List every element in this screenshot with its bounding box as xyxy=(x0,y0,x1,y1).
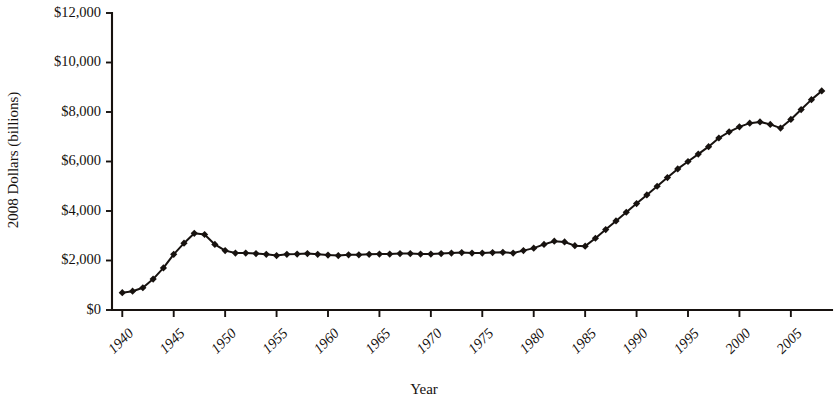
data-point-marker xyxy=(540,241,547,248)
data-point-marker xyxy=(571,242,578,249)
data-point-marker xyxy=(417,250,424,257)
x-tick-label: 2000 xyxy=(722,324,754,356)
data-point-marker xyxy=(283,251,290,258)
data-point-marker xyxy=(263,251,270,258)
data-point-marker xyxy=(427,250,434,257)
chart-container: $0$2,000$4,000$6,000$8,000$10,000$12,000… xyxy=(0,0,834,415)
data-point-marker xyxy=(386,250,393,257)
x-tick-label: 1980 xyxy=(516,324,548,356)
y-tick-label: $12,000 xyxy=(54,4,101,20)
data-point-marker xyxy=(324,251,331,258)
data-point-marker xyxy=(355,251,362,258)
x-tick-label: 1940 xyxy=(105,324,137,356)
x-tick-label: 1945 xyxy=(156,325,188,357)
data-point-marker xyxy=(294,250,301,257)
data-point-marker xyxy=(304,250,311,257)
x-tick-label: 2005 xyxy=(773,325,805,357)
data-point-marker xyxy=(458,249,465,256)
x-tick-label: 1985 xyxy=(567,325,599,357)
data-point-marker xyxy=(252,250,259,257)
x-tick-label: 1970 xyxy=(413,324,445,356)
data-point-marker xyxy=(396,250,403,257)
data-point-marker xyxy=(232,249,239,256)
data-point-marker xyxy=(510,249,517,256)
data-point-marker xyxy=(479,249,486,256)
y-axis-title: 2008 Dollars (billions) xyxy=(5,92,22,229)
data-point-marker xyxy=(520,247,527,254)
x-tick-label: 1990 xyxy=(619,324,651,356)
data-point-marker xyxy=(561,238,568,245)
series-markers xyxy=(119,87,826,296)
data-point-marker xyxy=(468,249,475,256)
data-point-marker xyxy=(530,245,537,252)
y-tick-label: $0 xyxy=(87,301,102,317)
data-point-marker xyxy=(119,289,126,296)
x-axis-title: Year xyxy=(410,381,438,397)
data-point-marker xyxy=(345,251,352,258)
data-point-marker xyxy=(273,252,280,259)
data-point-marker xyxy=(376,250,383,257)
data-point-marker xyxy=(746,120,753,127)
x-tick-label: 1960 xyxy=(310,324,342,356)
x-tick-label: 1965 xyxy=(362,325,394,357)
data-point-marker xyxy=(499,249,506,256)
data-point-marker xyxy=(448,249,455,256)
y-tick-label: $6,000 xyxy=(61,152,101,168)
y-axis-group: $0$2,000$4,000$6,000$8,000$10,000$12,000 xyxy=(54,4,112,317)
data-point-marker xyxy=(551,238,558,245)
y-tick-label: $10,000 xyxy=(54,53,101,69)
data-point-marker xyxy=(335,252,342,259)
y-tick-label: $2,000 xyxy=(61,251,101,267)
x-tick-label: 1975 xyxy=(465,325,497,357)
data-point-marker xyxy=(767,121,774,128)
data-point-marker xyxy=(438,250,445,257)
data-point-marker xyxy=(736,123,743,130)
y-tick-label: $4,000 xyxy=(61,202,101,218)
line-chart: $0$2,000$4,000$6,000$8,000$10,000$12,000… xyxy=(0,0,834,415)
x-tick-label: 1950 xyxy=(207,324,239,356)
data-point-marker xyxy=(407,250,414,257)
data-point-marker xyxy=(489,249,496,256)
y-tick-label: $8,000 xyxy=(61,103,101,119)
data-point-marker xyxy=(314,251,321,258)
data-series-group xyxy=(119,87,826,296)
series-line-spending xyxy=(122,91,821,293)
x-axis-group: 1940194519501955196019651970197519801985… xyxy=(105,310,832,357)
y-axis-tick-labels: $0$2,000$4,000$6,000$8,000$10,000$12,000 xyxy=(54,4,101,317)
x-axis-tick-labels: 1940194519501955196019651970197519801985… xyxy=(105,324,805,356)
x-tick-label: 1995 xyxy=(670,325,702,357)
x-tick-label: 1955 xyxy=(259,325,291,357)
data-point-marker xyxy=(242,249,249,256)
data-point-marker xyxy=(366,251,373,258)
data-point-marker xyxy=(756,118,763,125)
data-point-marker xyxy=(129,288,136,295)
